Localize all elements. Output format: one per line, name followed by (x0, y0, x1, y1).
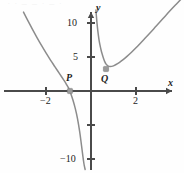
function-curve (24, 0, 182, 170)
x-axis-label: x (168, 78, 173, 88)
coordinate-plot (0, 0, 184, 173)
point-label-p: P (66, 73, 72, 83)
x-tick-label-minus-2: −2 (40, 96, 51, 106)
x-tick-label-2: 2 (133, 96, 138, 106)
point-label-q: Q (101, 74, 108, 84)
y-axis-label: y (96, 3, 100, 13)
y-tick-label-minus-10: −10 (60, 154, 76, 164)
y-tick-label-10: 10 (67, 18, 77, 28)
graph-figure: · · — — · — · y x 10 5 −10 −2 2 P Q (0, 0, 184, 173)
point-marker-p (67, 88, 72, 93)
curve-right-branch (96, 0, 181, 67)
y-tick-label-5: 5 (73, 52, 78, 62)
point-marker-q (103, 66, 108, 71)
